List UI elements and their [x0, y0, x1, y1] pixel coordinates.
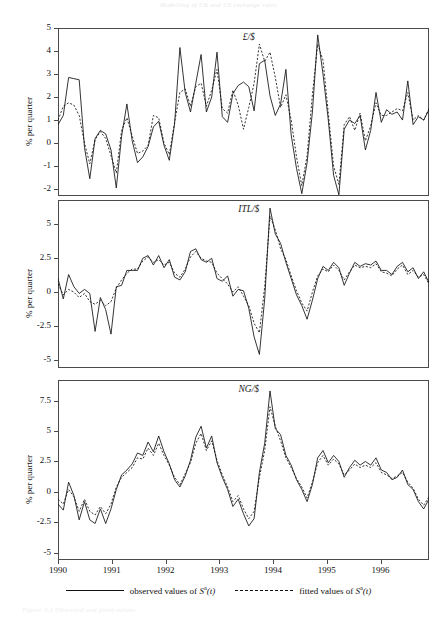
x-tick-mark: [112, 560, 113, 564]
fitted-line-3: [58, 407, 429, 519]
x-tick-label: 1990: [40, 565, 76, 575]
x-tick-mark: [166, 560, 167, 564]
x-tick-mark: [58, 560, 59, 564]
legend-label-fitted: fitted values of Sa(t): [299, 584, 371, 596]
x-tick-mark: [381, 560, 382, 564]
x-tick-label: 1993: [201, 565, 237, 575]
legend-item-observed: observed values of Sa(t): [66, 584, 216, 596]
x-tick-label: 1995: [309, 565, 345, 575]
x-tick-mark: [327, 560, 328, 564]
legend-item-fitted: fitted values of Sa(t): [235, 584, 371, 596]
x-tick-label: 1991: [94, 565, 130, 575]
x-tick-mark: [273, 560, 274, 564]
x-tick-label: 1992: [148, 565, 184, 575]
figure-legend: observed values of Sa(t) fitted values o…: [0, 582, 437, 598]
legend-swatch-solid: [66, 590, 124, 591]
legend-label-observed: observed values of Sa(t): [130, 584, 216, 596]
series-group-3: [0, 14, 437, 576]
x-tick-mark: [219, 560, 220, 564]
x-tick-label: 1996: [363, 565, 399, 575]
figure-multi-panel-timeseries: £/$% per quarter543210-1-2ITL/$% per qua…: [0, 14, 437, 576]
running-head: Modelling of UK and US exchange rates: [0, 1, 437, 8]
figure-caption: Figure 9.1 Observed and fitted values: [22, 606, 422, 614]
observed-line-3: [58, 391, 429, 526]
legend-swatch-dashed: [235, 590, 293, 591]
x-tick-label: 1994: [255, 565, 291, 575]
